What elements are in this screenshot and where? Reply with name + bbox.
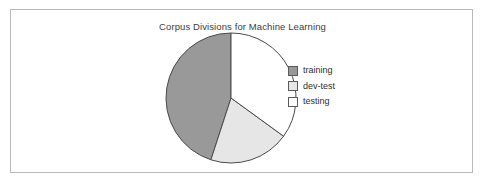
legend-label-training: training — [303, 65, 333, 76]
figure-root: Corpus Divisions for Machine Learning tr… — [0, 0, 488, 185]
legend-swatch-training-icon — [288, 66, 298, 76]
figure-frame: Corpus Divisions for Machine Learning tr… — [10, 9, 473, 173]
legend-item-testing[interactable]: testing — [288, 95, 335, 108]
legend-swatch-testing-icon — [288, 97, 298, 107]
legend-item-dev-test[interactable]: dev-test — [288, 80, 335, 93]
chart-legend: training dev-test testing — [288, 64, 335, 108]
pie-chart-area — [11, 10, 474, 174]
legend-swatch-dev-test-icon — [288, 81, 298, 91]
legend-item-training[interactable]: training — [288, 64, 335, 77]
pie-slices — [166, 33, 296, 163]
pie-chart-svg — [156, 28, 306, 168]
legend-label-dev-test: dev-test — [303, 81, 335, 92]
legend-label-testing: testing — [303, 96, 330, 107]
